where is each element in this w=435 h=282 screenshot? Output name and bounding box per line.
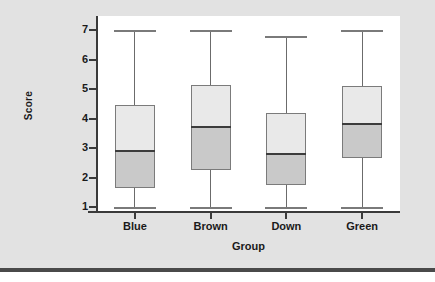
- upper-whisker-cap: [190, 30, 232, 32]
- y-tick-label-wrap: 2: [60, 172, 88, 184]
- y-tick-label-wrap: 6: [60, 54, 88, 66]
- y-tick-mark: [89, 206, 96, 208]
- x-tick-mark: [210, 213, 212, 219]
- x-tick-mark: [361, 213, 363, 219]
- y-tick-mark: [89, 147, 96, 149]
- upper-whisker-line: [362, 30, 363, 86]
- y-tick-label: 7: [70, 24, 88, 35]
- median-line: [266, 153, 306, 155]
- x-tick-label-brown: Brown: [176, 221, 246, 232]
- y-tick-label-wrap: 7: [60, 24, 88, 36]
- upper-whisker-line: [210, 30, 211, 85]
- lower-whisker-cap: [190, 207, 232, 209]
- median-line: [191, 126, 231, 128]
- lower-whisker-line: [134, 188, 135, 207]
- median-line: [342, 123, 382, 125]
- y-tick-label-wrap: 5: [60, 83, 88, 95]
- box-lower-quartile: [191, 127, 231, 170]
- upper-whisker-line: [286, 36, 287, 113]
- y-tick-label: 6: [70, 54, 88, 65]
- y-axis-label: Score: [23, 76, 34, 136]
- box-upper-quartile: [115, 105, 155, 151]
- x-tick-label-down: Down: [251, 221, 321, 232]
- box-upper-quartile: [342, 86, 382, 124]
- lower-whisker-cap: [265, 207, 307, 209]
- x-tick-label-blue: Blue: [100, 221, 170, 232]
- x-axis-label: Group: [97, 240, 400, 252]
- upper-whisker-cap: [114, 30, 156, 32]
- box-lower-quartile: [266, 154, 306, 185]
- boxplot-figure: 1234567 BlueBrownDownGreen Score Group: [0, 0, 435, 282]
- y-tick-label: 1: [70, 201, 88, 212]
- y-tick-label-wrap: 3: [60, 142, 88, 154]
- x-tick-mark: [285, 213, 287, 219]
- y-tick-label: 3: [70, 142, 88, 153]
- lower-whisker-cap: [114, 207, 156, 209]
- y-tick-mark: [89, 59, 96, 61]
- lower-whisker-line: [362, 158, 363, 207]
- bottom-rule: [0, 268, 435, 272]
- lower-whisker-line: [286, 185, 287, 207]
- box-upper-quartile: [191, 85, 231, 128]
- y-tick-label: 4: [70, 113, 88, 124]
- box-upper-quartile: [266, 113, 306, 154]
- y-tick-label-wrap: 4: [60, 113, 88, 125]
- upper-whisker-line: [134, 30, 135, 105]
- y-tick-mark: [89, 88, 96, 90]
- y-axis-line: [96, 16, 98, 212]
- y-tick-mark: [89, 118, 96, 120]
- y-tick-label: 2: [70, 172, 88, 183]
- box-lower-quartile: [115, 151, 155, 188]
- upper-whisker-cap: [341, 30, 383, 32]
- y-tick-mark: [89, 29, 96, 31]
- y-tick-label: 5: [70, 83, 88, 94]
- x-tick-label-green: Green: [327, 221, 397, 232]
- median-line: [115, 150, 155, 152]
- lower-whisker-line: [210, 170, 211, 207]
- y-tick-mark: [89, 177, 96, 179]
- x-tick-mark: [134, 213, 136, 219]
- lower-whisker-cap: [341, 207, 383, 209]
- upper-whisker-cap: [265, 36, 307, 38]
- y-tick-label-wrap: 1: [60, 201, 88, 213]
- box-lower-quartile: [342, 124, 382, 158]
